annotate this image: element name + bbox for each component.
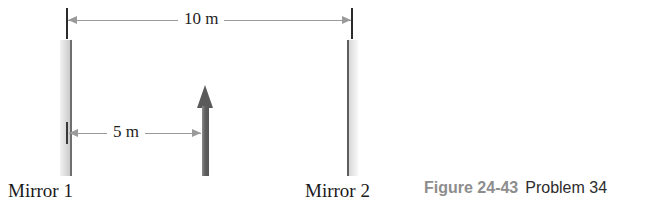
mirror-2-reflective-face [347,40,349,176]
extension-tick-left-bottom [66,122,68,144]
object-arrow-shaft [202,106,209,176]
mirror-2-label: Mirror 2 [305,180,370,202]
extension-line-right-top [351,8,353,39]
dimension-arrowhead-10m-right [342,16,351,24]
dimension-arrowhead-10m-left [68,16,77,24]
object-arrow-head-icon [197,85,213,108]
mirror-1-reflective-face [70,40,72,176]
dimension-label-10m: 10 m [178,9,224,29]
mirror-1-label: Mirror 1 [8,180,73,202]
figure-number: Figure 24-43 [424,179,518,196]
figure-container: 10 m 5 m Mirror 1 Mirror 2 Figure 24-43P… [0,0,656,213]
dimension-label-5m: 5 m [107,122,145,142]
dimension-arrowhead-5m-right [192,129,201,137]
dimension-arrowhead-5m-left [69,129,78,137]
figure-caption: Figure 24-43Problem 34 [424,178,607,198]
mirror-2-body [347,40,358,176]
figure-problem-label: Problem 34 [525,179,607,196]
mirror-1 [60,40,73,176]
mirror-2 [345,40,358,176]
